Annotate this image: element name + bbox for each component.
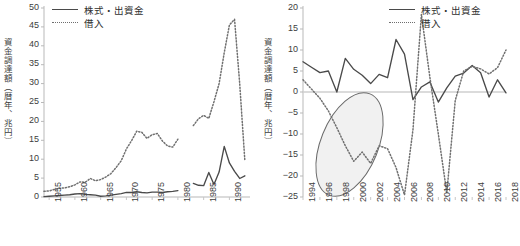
y-tick-label: −5 (263, 107, 298, 117)
legend-line-dotted-icon (389, 22, 415, 23)
legend-label-equity: 株式・出資金 (84, 3, 144, 17)
y-tick-label: 10 (263, 44, 298, 54)
x-tick-label: 2018 (510, 182, 520, 202)
y-tick-label: 20 (263, 2, 298, 12)
x-tick-label: 2008 (425, 182, 435, 202)
legend-right: 株式・出資金 借入 (389, 3, 481, 29)
x-tick-label: 1996 (324, 182, 334, 202)
y-tick-label: 15 (4, 134, 39, 144)
legend-item-equity: 株式・出資金 (52, 3, 144, 16)
x-tick-label: 2016 (493, 182, 503, 202)
x-tick-label: 1980 (182, 182, 192, 202)
y-tick-label: −10 (263, 128, 298, 138)
y-tick-label: 25 (4, 96, 39, 106)
legend-label-borrowing: 借入 (421, 16, 441, 30)
y-tick-label: 10 (4, 153, 39, 163)
y-tick-label: 15 (263, 23, 298, 33)
x-tick-label: 2014 (476, 182, 486, 202)
series-line (193, 19, 245, 160)
y-tick-label: 5 (263, 65, 298, 75)
x-tick-label: 1998 (341, 182, 351, 202)
x-tick-label: 2010 (442, 182, 452, 202)
x-tick-label: 1955 (53, 182, 63, 202)
y-tick-label: 20 (4, 115, 39, 125)
y-tick-label: 30 (4, 77, 39, 87)
legend-item-borrowing: 借入 (52, 16, 144, 29)
y-tick-label: 0 (263, 86, 298, 96)
legend-line-dotted-icon (52, 22, 78, 23)
y-tick-label: 5 (4, 172, 39, 182)
y-tick-label: 45 (4, 20, 39, 30)
x-tick-label: 1990 (233, 182, 243, 202)
y-tick-label: −20 (263, 170, 298, 180)
x-tick-label: 1965 (105, 182, 115, 202)
x-tick-label: 2000 (358, 182, 368, 202)
y-tick-label: 40 (4, 39, 39, 49)
x-tick-label: 2012 (459, 182, 469, 202)
x-tick-label: 1960 (79, 182, 89, 202)
x-tick-label: 2004 (392, 182, 402, 202)
legend-label-equity: 株式・出資金 (421, 3, 481, 17)
legend-line-solid-icon (52, 9, 78, 10)
legend-item-equity: 株式・出資金 (389, 3, 481, 16)
legend-item-borrowing: 借入 (389, 16, 481, 29)
chart-panel-left: 資金調達額（暦年、兆円） 05101520253035404550 195519… (0, 0, 256, 246)
x-tick-label: 2002 (375, 182, 385, 202)
x-tick-label: 1994 (307, 182, 317, 202)
legend-label-borrowing: 借入 (84, 16, 104, 30)
legend-line-solid-icon (389, 9, 415, 10)
y-tick-label: 35 (4, 58, 39, 68)
legend-left: 株式・出資金 借入 (52, 3, 144, 29)
y-tick-label: 0 (4, 191, 39, 201)
x-tick-label: 1985 (208, 182, 218, 202)
x-tick-label: 1970 (130, 182, 140, 202)
y-tick-label: 50 (4, 2, 39, 12)
x-tick-label: 1975 (156, 182, 166, 202)
y-tick-label: −25 (263, 191, 298, 201)
y-tick-label: −15 (263, 149, 298, 159)
chart-panel-right: 資金調達額（暦年、兆円） −25−20−15−10−505101520 1994… (256, 0, 511, 246)
plot-area-right (256, 0, 511, 246)
x-tick-label: 2006 (409, 182, 419, 202)
series-line (193, 146, 245, 185)
